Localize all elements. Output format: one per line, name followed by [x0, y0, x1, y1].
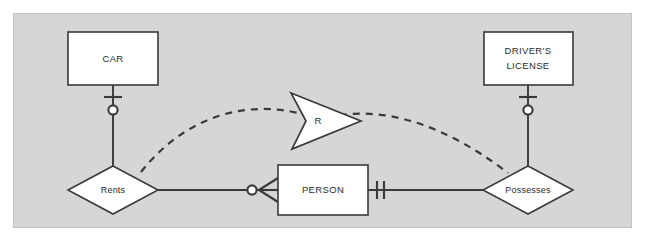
entity-drivers-license[interactable]: DRIVER'S LICENSE [484, 32, 573, 85]
entity-person-label: PERSON [302, 184, 344, 195]
r-arrow-chevron-icon[interactable] [291, 93, 361, 149]
entity-person[interactable]: PERSON [278, 165, 368, 215]
relationship-rents[interactable]: Rents [68, 166, 158, 214]
er-diagram-svg: CAR DRIVER'S LICENSE PERSON Rents Posses… [0, 0, 648, 242]
entity-car[interactable]: CAR [68, 32, 158, 85]
entity-drivers-license-label-line1: DRIVER'S [505, 45, 552, 56]
er-diagram-canvas: CAR DRIVER'S LICENSE PERSON Rents Posses… [0, 0, 648, 242]
entity-drivers-license-label-line2: LICENSE [506, 60, 549, 71]
annotation-r-arrow[interactable]: R [291, 93, 361, 149]
r-arrow-label: R [315, 115, 322, 126]
cardinality-person-zero-or-many [247, 178, 278, 202]
relationship-possesses-label: Possesses [505, 185, 551, 195]
entity-drivers-license-box[interactable] [484, 32, 573, 85]
relationship-rents-label: Rents [101, 185, 126, 195]
relationship-possesses[interactable]: Possesses [483, 166, 573, 214]
entity-car-label: CAR [102, 53, 123, 64]
